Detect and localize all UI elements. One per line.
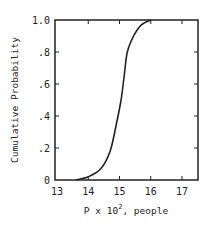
x-tick-label: 14 (82, 186, 94, 197)
x-tick-label: 17 (176, 186, 188, 197)
y-tick-label: .4 (38, 111, 50, 122)
y-axis-label: Cumulative Probability (9, 37, 20, 163)
cdf-curve (76, 20, 151, 180)
cdf-chart: 0.2.4.6.81.0 1314151617 Cumulative Proba… (0, 0, 208, 228)
y-tick-label: .8 (38, 47, 50, 58)
plot-frame (55, 20, 198, 180)
y-tick-label: 1.0 (32, 15, 50, 26)
x-tick-label: 15 (113, 186, 125, 197)
y-tick-label: .6 (38, 79, 50, 90)
x-tick-label: 16 (145, 186, 157, 197)
x-tick-label: 13 (51, 186, 63, 197)
y-tick-label: 0 (44, 175, 50, 186)
y-axis-ticks: 0.2.4.6.81.0 (32, 15, 198, 186)
y-tick-label: .2 (38, 143, 50, 154)
x-axis-label: P x 102, people (84, 203, 169, 216)
